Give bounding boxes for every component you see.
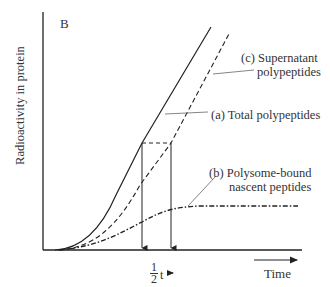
leader-line-b <box>188 176 216 206</box>
half-denominator: 2 <box>151 272 157 286</box>
half-t-symbol: t <box>160 268 163 283</box>
half-fraction: 1 2 <box>150 262 158 285</box>
curve-c-label-line2: polypeptides <box>257 65 321 79</box>
figure: B Radioactivity in protein (c) Supernata… <box>0 0 330 287</box>
chart-plot <box>0 0 330 287</box>
leader-line-c <box>213 70 254 74</box>
curve-b-label-line1: (b) Polysome-bound <box>209 166 311 180</box>
curve-b-label-line2: nascent peptides <box>229 180 311 194</box>
panel-letter: B <box>60 17 69 31</box>
y-axis-label: Radioactivity in protein <box>13 36 28 176</box>
x-axis-label: Time <box>264 267 291 281</box>
curve-a-label: (a) Total polypeptides <box>211 108 320 122</box>
curve-c-label-line1: (c) Supernatant <box>241 51 318 65</box>
curve-c-supernatant-polypeptides <box>58 32 230 250</box>
curve-a-total-polypeptides <box>55 27 211 250</box>
